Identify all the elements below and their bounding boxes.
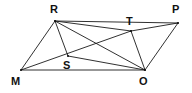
vertex-point-o <box>144 69 146 71</box>
vertex-point-p <box>177 22 179 24</box>
vertex-label-r: R <box>50 4 58 15</box>
segment-SO <box>68 56 145 70</box>
vertex-point-r <box>54 20 56 22</box>
segment-TP <box>131 23 178 31</box>
segment-RM <box>21 21 55 70</box>
edges-group <box>21 21 178 70</box>
vertex-label-m: M <box>11 76 20 87</box>
vertex-point-s <box>67 55 69 57</box>
segment-RS <box>55 21 68 56</box>
vertex-point-m <box>20 69 22 71</box>
figure-canvas <box>0 0 192 93</box>
vertex-label-t: T <box>126 16 133 27</box>
geometry-figure: RPTSMO <box>0 0 192 93</box>
segment-RP <box>55 21 178 23</box>
vertex-label-o: O <box>139 76 148 87</box>
vertex-label-s: S <box>63 60 70 71</box>
vertex-label-p: P <box>172 4 179 15</box>
vertex-point-t <box>130 30 132 32</box>
segment-TO <box>131 31 145 70</box>
segment-PO <box>145 23 178 70</box>
